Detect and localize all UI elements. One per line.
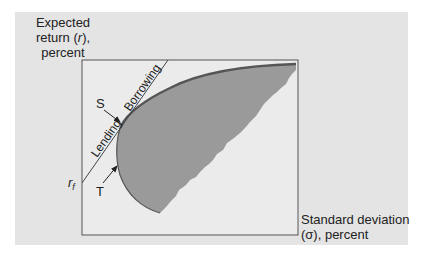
point-T-label: T xyxy=(96,184,104,199)
point-S-label: S xyxy=(96,96,105,111)
risk-free-subscript: f xyxy=(72,182,76,192)
diagram-canvas: Lending Borrowing S T rf xyxy=(0,0,421,256)
risk-free-rate-label: rf xyxy=(68,175,76,192)
